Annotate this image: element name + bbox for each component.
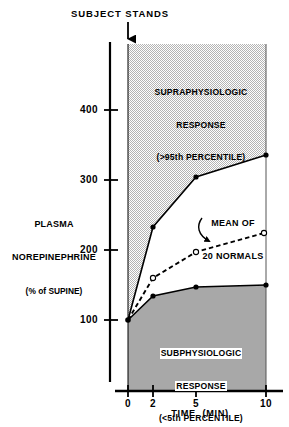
y-axis-title-line-1: PLASMA: [2, 219, 106, 230]
x-tick-label-5: 5: [186, 398, 206, 409]
x-axis-title: TIME (MIN): [140, 408, 260, 420]
y-tick-label-300: 300: [58, 174, 98, 185]
supraphysiologic-line-1: SUPRAPHYSIOLOGIC: [137, 87, 265, 98]
mean-of-20-normals-label: MEAN OF 20 NORMALS: [190, 195, 276, 285]
data-point-origin: [125, 317, 131, 323]
supraphysiologic-region-label: SUPRAPHYSIOLOGIC RESPONSE (>95th PERCENT…: [137, 66, 265, 184]
y-axis-title-line-3: (% of SUPINE): [2, 286, 106, 297]
subphysiologic-line-1-wrap: SUBPHYSIOLOGIC: [137, 348, 265, 359]
data-point: [150, 224, 155, 229]
y-axis-title: PLASMA NOREPINEPHRINE (% of SUPINE): [2, 196, 106, 319]
subphysiologic-line-1: SUBPHYSIOLOGIC: [160, 348, 243, 359]
x-tick-label-2: 2: [143, 398, 163, 409]
y-tick-label-400: 400: [58, 104, 98, 115]
y-tick-label-100: 100: [58, 314, 98, 325]
mean-line-2: 20 NORMALS: [190, 251, 276, 262]
x-tick-label-10: 10: [256, 398, 276, 409]
data-point: [193, 284, 198, 289]
subphysiologic-line-2: RESPONSE: [175, 381, 226, 392]
mean-line-1: MEAN OF: [190, 218, 276, 229]
figure-container: SUBJECT STANDS SUPRAPHYSIOLOGIC RESPONSE…: [0, 0, 289, 427]
subject-stands-label: SUBJECT STANDS: [0, 8, 240, 20]
y-tick-label-200: 200: [58, 244, 98, 255]
x-tick-label-0: 0: [118, 398, 138, 409]
supraphysiologic-line-3: (>95th PERCENTILE): [137, 152, 265, 163]
supraphysiologic-line-2: RESPONSE: [137, 120, 265, 131]
subphysiologic-line-2-wrap: RESPONSE: [137, 381, 265, 392]
data-point: [150, 293, 155, 298]
data-point-open: [150, 275, 155, 280]
